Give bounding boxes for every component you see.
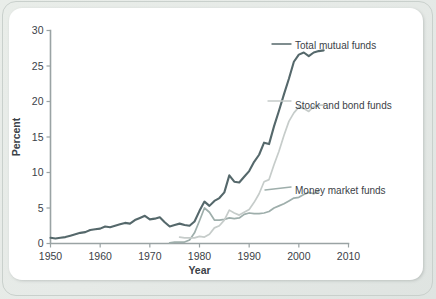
series-money-market-funds (170, 191, 319, 243)
x-tick-label: 1990 (237, 250, 261, 262)
line-chart: 0510152025301950196019701980199020002010… (0, 0, 436, 299)
x-tick-label: 1950 (39, 250, 63, 262)
y-tick-label: 30 (32, 24, 44, 36)
x-tick-label: 1970 (138, 250, 162, 262)
x-tick-label: 2000 (287, 250, 311, 262)
series-line (170, 191, 319, 243)
series-label: Stock and bond funds (295, 100, 392, 111)
series-label-group: Stock and bond funds (268, 100, 392, 111)
y-tick-label: 5 (38, 202, 44, 214)
series-label: Money market funds (295, 185, 386, 196)
series-leader-line (265, 187, 291, 190)
x-axis-ticks: 1950196019701980199020002010 (39, 244, 361, 262)
y-tick-label: 20 (32, 95, 44, 107)
y-axis-ticks: 051015202530 (32, 24, 51, 249)
series-label-group: Total mutual funds (272, 40, 376, 51)
figure-container: 0510152025301950196019701980199020002010… (0, 0, 436, 299)
y-tick-label: 10 (32, 166, 44, 178)
y-axis-title: Percent (10, 117, 22, 156)
y-tick-label: 25 (32, 60, 44, 72)
series-line (51, 50, 324, 238)
series-total-mutual-funds (51, 50, 324, 238)
x-tick-label: 1980 (188, 250, 212, 262)
series-label-group: Money market funds (265, 185, 386, 196)
x-axis-title: Year (188, 264, 210, 276)
y-tick-label: 0 (38, 237, 44, 249)
x-tick-label: 1960 (88, 250, 112, 262)
x-tick-label: 2010 (337, 250, 361, 262)
y-tick-label: 15 (32, 131, 44, 143)
series-label: Total mutual funds (295, 40, 376, 51)
